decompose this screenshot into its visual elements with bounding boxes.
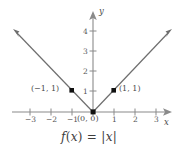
x-tick-label-neg2: −2	[46, 116, 57, 124]
caption-variable: x	[71, 130, 78, 144]
caption-equals-sign: =	[87, 130, 97, 144]
function-curve-right-branch	[93, 33, 168, 112]
x-tick-label-2: 2	[133, 116, 138, 124]
point-label-1-1: (1, 1)	[119, 85, 141, 93]
data-point-marker-neg1-1	[69, 88, 74, 93]
left-branch-arrow-icon	[13, 29, 20, 37]
y-tick-label-1: 1	[83, 88, 88, 96]
absolute-value-function-figure: −3 −2 −1 1 2 3 1 2 3 4 y x (−1, 1) (0, 0…	[0, 0, 178, 156]
right-branch-arrow-icon	[166, 29, 173, 37]
point-label-origin: (0, 0)	[77, 115, 99, 123]
caption-absolute-value-expression: |x|	[101, 130, 117, 144]
x-tick-label-neg3: −3	[25, 116, 36, 124]
y-tick-label-4: 4	[83, 28, 88, 36]
x-tick-label-3: 3	[154, 116, 159, 124]
figure-caption: f(x) = |x|	[0, 130, 178, 144]
caption-paren-close: )	[78, 130, 83, 144]
y-tick-label-3: 3	[83, 48, 88, 56]
point-label-neg1-1: (−1, 1)	[31, 85, 59, 93]
x-tick-label-1: 1	[112, 116, 117, 124]
x-axis-label: x	[164, 118, 169, 127]
function-curve-left-branch	[17, 33, 93, 112]
y-axis-label: y	[99, 7, 104, 16]
data-point-marker-1-1	[111, 88, 116, 93]
y-tick-label-2: 2	[83, 68, 88, 76]
